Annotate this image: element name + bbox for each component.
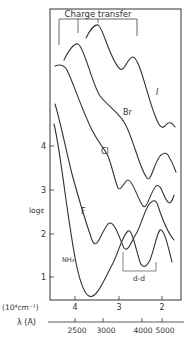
dd-label: d-d: [133, 274, 145, 283]
series-label-NH3: NH₃: [62, 256, 75, 264]
charge-transfer-bracket: [59, 19, 137, 45]
x-axis-label: (10⁴cm⁻¹): [2, 303, 39, 312]
wavelength-tick-3000: 3000: [96, 326, 115, 335]
x-tick-4: 4: [72, 303, 77, 312]
curve-Br: [64, 44, 176, 179]
spectra-chart: Charge transfer I Br Cl F NH₃ d-d 4 3 2 …: [0, 0, 190, 339]
charge-transfer-label: Charge transfer: [65, 9, 132, 19]
series-label-Br: Br: [123, 108, 132, 117]
y-tick-4: 4: [41, 142, 46, 151]
wavelength-tick-4000: 4000: [133, 326, 152, 335]
y-tick-2: 2: [41, 230, 46, 239]
wavelength-ticks: [75, 318, 162, 322]
series-label-Cl: Cl: [101, 147, 109, 156]
x-tick-3: 3: [116, 303, 121, 312]
y-axis-ticks: [50, 146, 54, 277]
wavelength-axis-label: λ (A): [17, 318, 36, 327]
x-axis-ticks: [75, 296, 162, 300]
series-label-I: I: [156, 88, 159, 97]
wavelength-tick-5000: 5000: [155, 326, 174, 335]
y-axis-label: logε: [29, 206, 45, 215]
y-tick-1: 1: [41, 273, 46, 282]
wavelength-tick-2500: 2500: [67, 326, 86, 335]
series-label-F: F: [81, 207, 86, 216]
curve-Cl: [55, 65, 174, 207]
y-tick-3: 3: [41, 186, 46, 195]
x-tick-2: 2: [159, 303, 164, 312]
